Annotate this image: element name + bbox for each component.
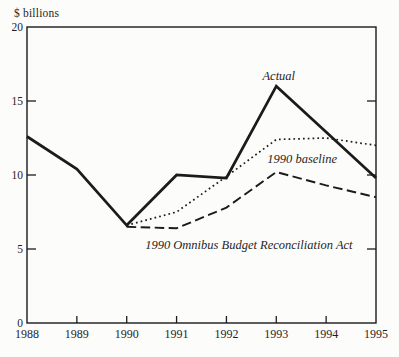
x-axis-tick-label: 1989 bbox=[65, 327, 89, 341]
x-axis-tick-label: 1993 bbox=[264, 327, 288, 341]
y-axis-tick-label: 5 bbox=[17, 243, 23, 255]
x-axis-tick-label: 1995 bbox=[364, 327, 388, 341]
x-axis-tick-label: 1994 bbox=[314, 327, 338, 341]
plot-frame bbox=[27, 27, 376, 323]
x-axis-tick-label: 1992 bbox=[214, 327, 238, 341]
x-axis-tick-label: 1988 bbox=[15, 327, 39, 341]
annotation-1990-baseline: 1990 baseline bbox=[267, 152, 337, 166]
y-axis-tick-label: 10 bbox=[12, 169, 24, 181]
y-axis-tick-label: 15 bbox=[12, 95, 24, 107]
chart-figure: $ billions 05101520198819891990199119921… bbox=[0, 0, 399, 357]
y-axis-tick-label: 20 bbox=[12, 21, 24, 33]
annotation-actual: Actual bbox=[261, 69, 295, 83]
series-line-1990-omnibus-budget-reconciliation-act bbox=[127, 172, 376, 228]
x-axis-tick-label: 1990 bbox=[115, 327, 139, 341]
line-chart: 0510152019881989199019911992199319941995… bbox=[0, 0, 399, 357]
annotation-1990-omnibus-budget-reconciliation-act: 1990 Omnibus Budget Reconciliation Act bbox=[145, 238, 353, 252]
x-axis-tick-label: 1991 bbox=[165, 327, 189, 341]
series-line-1990-baseline bbox=[127, 138, 376, 225]
